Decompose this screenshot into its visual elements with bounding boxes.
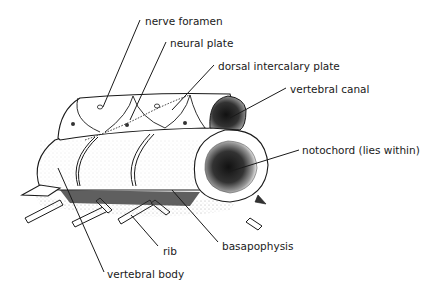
label-notochord: notochord (lies within) [302, 145, 420, 156]
label-dorsal-intercalary-plate: dorsal intercalary plate [218, 61, 340, 72]
label-vertebral-body: vertebral body [107, 269, 184, 280]
label-nerve-foramen: nerve foramen [145, 16, 223, 27]
notochord-shape [205, 141, 257, 193]
vertebral-column-diagram: nerve foramen neural plate dorsal interc… [0, 0, 431, 295]
label-vertebral-canal: vertebral canal [290, 84, 369, 95]
leader-nerve-foramen [103, 20, 140, 107]
label-neural-plate: neural plate [170, 38, 233, 49]
label-basapophysis: basapophysis [222, 241, 294, 252]
label-rib: rib [163, 246, 177, 257]
leader-rib [131, 215, 158, 246]
